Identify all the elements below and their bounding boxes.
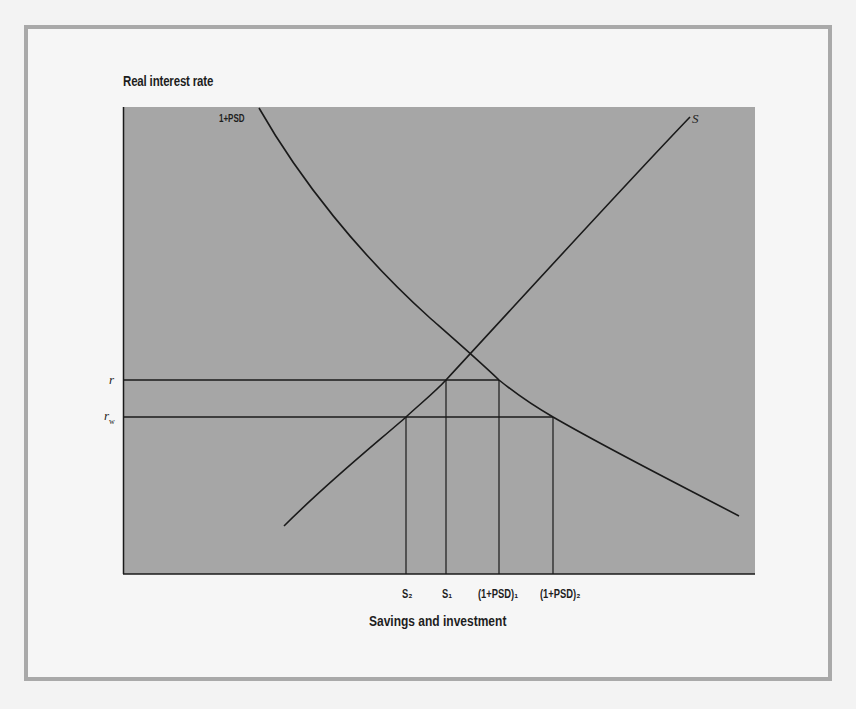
plot-area [0, 0, 856, 709]
x-tick-s1: S₁ [442, 587, 452, 601]
x-axis-label: Savings and investment [369, 612, 506, 629]
y-tick-r: r [109, 372, 114, 388]
x-tick-psd2: (1+PSD)₂ [540, 587, 580, 601]
x-tick-s2: S₂ [402, 587, 412, 601]
psd-curve-label: 1+PSD [219, 113, 245, 124]
x-tick-psd1: (1+PSD)₁ [478, 587, 518, 601]
y-tick-rw: rw [104, 408, 115, 426]
s-curve-label: S [692, 111, 699, 127]
plot-background [123, 107, 755, 574]
